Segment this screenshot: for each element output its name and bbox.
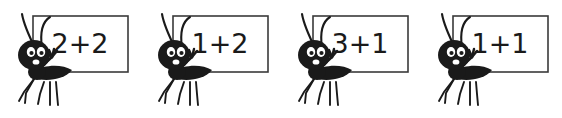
ant-mouth [173,59,180,64]
ant-right-pupil [39,51,43,55]
flashcard-4[interactable]: 1+1 [420,0,560,118]
flashcard-1[interactable]: 2+2 [0,0,140,118]
ant-right-pupil [179,51,183,55]
ant-left-pupil [309,51,313,55]
ant-left-pupil [169,51,173,55]
ant-with-sign-illustration: 2+2 [0,0,140,118]
problem-label: 1+1 [472,28,529,59]
flashcard-2[interactable]: 1+2 [140,0,280,118]
ant-with-sign-illustration: 3+1 [280,0,420,118]
ant-addition-worksheet: 2+2 [0,0,562,118]
ant-mouth [313,59,320,64]
ant-mouth [33,59,40,64]
ant-left-pupil [29,51,33,55]
ant-right-pupil [459,51,463,55]
ant-with-sign-illustration: 1+1 [420,0,560,118]
problem-label: 3+1 [332,28,389,59]
ant-right-pupil [319,51,323,55]
problem-label: 2+2 [52,28,109,59]
ant-with-sign-illustration: 1+2 [140,0,280,118]
problem-label: 1+2 [192,28,249,59]
flashcard-3[interactable]: 3+1 [280,0,420,118]
ant-left-pupil [449,51,453,55]
ant-mouth [453,59,460,64]
